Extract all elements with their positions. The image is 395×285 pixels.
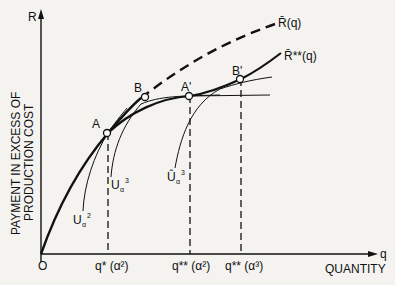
y-axis-symbol: R [28, 10, 37, 24]
point-b [142, 94, 149, 101]
x-axis [41, 251, 378, 257]
point-a [104, 130, 111, 137]
x-tick-q-dstar-alpha3: q** (α³) [225, 259, 263, 273]
label-a: A [92, 117, 100, 131]
svg-text:3: 3 [181, 169, 185, 176]
svg-text:PRODUCTION COST: PRODUCTION COST [22, 103, 36, 221]
label-b-prime: B' [232, 64, 242, 78]
diagram: A B A' B' R̄(q) R̄**(q) U α 2 U α 3 Û α … [0, 0, 395, 285]
r-bar-curve-solid [41, 98, 141, 254]
u-alpha3-curve [111, 95, 220, 177]
svg-text:α: α [120, 186, 124, 193]
label-r-bar-star: R̄**(q) [284, 49, 317, 63]
svg-text:Û: Û [167, 169, 176, 184]
svg-text:α: α [82, 221, 86, 228]
label-u-alpha3: U α 3 [111, 177, 129, 193]
label-u-alpha2: U α 2 [73, 212, 91, 228]
x-axis-title: QUANTITY [325, 262, 386, 276]
svg-text:U: U [111, 178, 120, 192]
label-u-hat-alpha3: Û α 3 [167, 169, 185, 185]
label-r-bar: R̄(q) [278, 16, 301, 30]
y-axis [38, 9, 44, 262]
svg-text:3: 3 [125, 177, 129, 184]
x-axis-symbol: q [380, 247, 387, 261]
svg-text:PAYMENT IN EXCESS OF: PAYMENT IN EXCESS OF [9, 92, 23, 235]
label-a-prime: A' [181, 80, 191, 94]
y-axis-title: PAYMENT IN EXCESS OF PRODUCTION COST [9, 92, 36, 235]
svg-text:2: 2 [87, 212, 91, 219]
x-tick-q-star-alpha2: q* (α²) [95, 259, 129, 273]
svg-text:U: U [73, 213, 82, 227]
r-bar-curve-dashed [141, 24, 275, 98]
label-b: B [134, 81, 142, 95]
x-axis-arrow-icon [368, 251, 378, 257]
x-tick-q-dstar-alpha2: q** (α²) [172, 259, 210, 273]
svg-text:α: α [176, 178, 180, 185]
origin-label: O [38, 259, 47, 273]
y-axis-arrow-icon [38, 9, 44, 19]
